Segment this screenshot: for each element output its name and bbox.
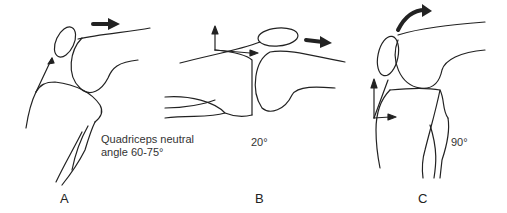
angle-label-b: 20° xyxy=(251,136,268,148)
panel-letter-a: A xyxy=(60,191,69,206)
caption-a-line1: Quadriceps neutral xyxy=(101,133,194,145)
panel-c-drawing xyxy=(371,22,485,178)
knee-diagram xyxy=(0,0,507,213)
caption-a-line2: angle 60-75° xyxy=(101,146,164,158)
angle-label-c: 90° xyxy=(451,136,468,148)
panel-letter-c: C xyxy=(418,191,427,206)
panel-a-drawing xyxy=(26,24,150,185)
panel-letter-b: B xyxy=(255,191,264,206)
